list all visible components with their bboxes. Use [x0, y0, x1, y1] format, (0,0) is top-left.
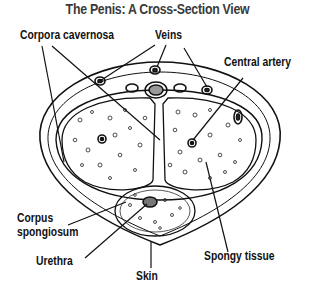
leader-corpora-cavernosa-1 — [42, 46, 64, 162]
label-corpora-cavernosa: Corpora cavernosa — [20, 29, 114, 42]
label-corpus-spongiosum-line1: Corpus — [17, 212, 53, 225]
label-spongy-tissue: Spongy tissue — [204, 250, 275, 263]
leader-central-artery — [193, 78, 243, 140]
label-urethra: Urethra — [36, 255, 73, 268]
leader-corpus-spongiosum — [68, 202, 126, 225]
label-central-artery: Central artery — [224, 56, 291, 69]
leader-veins-2 — [157, 45, 166, 67]
label-veins: Veins — [155, 29, 182, 42]
label-corpus-spongiosum-line2: spongiosum — [17, 226, 78, 239]
label-skin: Skin — [136, 270, 158, 283]
leader-spongy-tissue — [206, 162, 228, 252]
leader-corpora-cavernosa-2 — [52, 46, 160, 140]
